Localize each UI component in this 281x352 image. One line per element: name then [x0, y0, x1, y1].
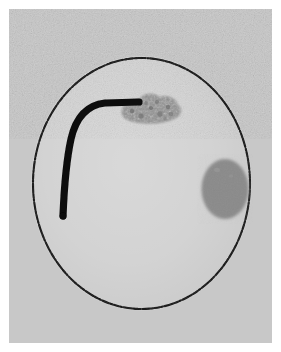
round-opacity [197, 154, 253, 224]
scan-figure: Monochrome radiographic-style image: a d… [0, 0, 281, 352]
film-field [9, 9, 272, 343]
hook-shaped-lead [49, 87, 149, 227]
